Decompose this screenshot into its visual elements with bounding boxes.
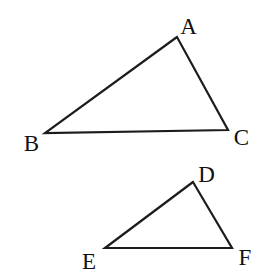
- geometry-figure: A B C D E F: [0, 0, 262, 275]
- vertex-label-b: B: [24, 131, 39, 156]
- triangle-abc-outline: [45, 37, 228, 133]
- vertex-label-c: C: [234, 125, 249, 150]
- similar-triangles-diagram: A B C D E F: [0, 0, 262, 275]
- vertex-label-a: A: [180, 14, 197, 39]
- vertex-label-d: D: [198, 162, 215, 187]
- vertex-label-f: F: [239, 245, 252, 270]
- triangle-def-outline: [105, 182, 232, 248]
- vertex-label-e: E: [82, 249, 96, 274]
